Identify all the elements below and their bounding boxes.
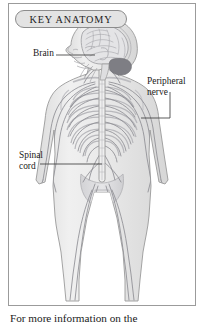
callout-label-peripheral-nerve: Peripheral nerve — [147, 76, 186, 98]
page-root: KEY ANATOMY Brain Peripheral nerve Spina… — [0, 0, 207, 333]
panel-header-pill: KEY ANATOMY — [15, 10, 127, 28]
panel-header-title: KEY ANATOMY — [29, 14, 112, 25]
callout-label-brain: Brain — [33, 48, 54, 59]
key-anatomy-panel: KEY ANATOMY Brain Peripheral nerve Spina… — [8, 3, 196, 306]
cerebellum-shape — [109, 58, 131, 75]
spinal-cord-group — [99, 66, 105, 182]
callout-label-spinal-cord: Spinal cord — [19, 150, 43, 172]
panel-caption-text: For more information on the — [10, 311, 200, 325]
